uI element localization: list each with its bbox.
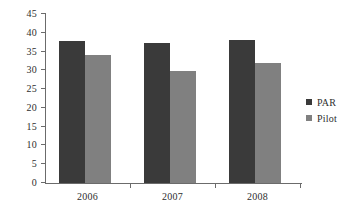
y-axis-tick-label: 25: [0, 82, 37, 95]
bar-pilot-2008[interactable]: [255, 63, 281, 183]
y-axis-tick-label: 45: [0, 7, 37, 20]
chart-legend: PARPilot: [306, 94, 337, 126]
x-axis-label-2006: 2006: [45, 190, 130, 203]
bar-chart-screenshot: 051015202530354045 200620072008 PARPilot: [0, 0, 359, 217]
legend-item-par[interactable]: PAR: [306, 94, 337, 110]
y-axis-tick-label: 10: [0, 138, 37, 151]
bar-par-2006[interactable]: [59, 41, 85, 183]
bar-group: [215, 14, 300, 183]
x-axis-tick-mark: [215, 184, 216, 188]
plot-area: [45, 14, 300, 183]
y-axis-tick-label: 40: [0, 26, 37, 39]
bar-group: [45, 14, 130, 183]
legend-swatch-icon: [306, 99, 312, 105]
bar-par-2008[interactable]: [229, 40, 255, 183]
legend-item-pilot[interactable]: Pilot: [306, 110, 337, 126]
y-axis-tick-label: 15: [0, 120, 37, 133]
x-axis-label-2008: 2008: [215, 190, 300, 203]
x-axis-tick-mark: [130, 184, 131, 188]
y-axis-tick-label: 35: [0, 45, 37, 58]
bar-par-2007[interactable]: [144, 43, 170, 183]
legend-label: Pilot: [317, 112, 337, 125]
x-axis-tick-mark: [300, 184, 301, 188]
x-axis-line: [45, 183, 302, 184]
y-axis-tick-label: 0: [0, 176, 37, 189]
y-axis-tick-label: 20: [0, 101, 37, 114]
bar-group: [130, 14, 215, 183]
legend-swatch-icon: [306, 115, 312, 121]
bar-pilot-2006[interactable]: [85, 55, 111, 183]
y-axis-tick-label: 30: [0, 63, 37, 76]
y-axis-tick-label: 5: [0, 157, 37, 170]
x-axis-label-2007: 2007: [130, 190, 215, 203]
legend-label: PAR: [317, 96, 336, 109]
bar-pilot-2007[interactable]: [170, 71, 196, 183]
